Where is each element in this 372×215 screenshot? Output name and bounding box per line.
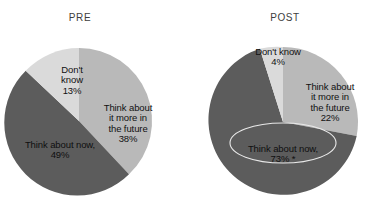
- pre-label-now: Think about now, 49%: [6, 129, 114, 171]
- post-label-now: Think about now, 73% *: [230, 133, 336, 175]
- post-label-future-text: Think about it more in the future: [306, 81, 355, 113]
- pie-chart-figure: PRE POST Think about it more in the futu…: [0, 0, 372, 215]
- pre-label-dont-know: Don't know 13%: [48, 54, 96, 107]
- pre-label-dont-know-pct: 13%: [48, 86, 96, 97]
- post-label-now-text: Think about now,: [248, 143, 318, 154]
- pre-label-now-text: Think about now,: [25, 139, 95, 150]
- post-label-dont-know: Don't know 4%: [242, 36, 314, 78]
- post-label-future: Think about it more in the future 22%: [294, 71, 366, 135]
- post-label-now-pct: 73% *: [230, 154, 336, 165]
- post-label-future-pct: 22%: [294, 113, 366, 124]
- pre-label-dont-know-text: Don't know: [61, 64, 83, 86]
- post-label-dont-know-text: Don't know: [255, 46, 301, 57]
- post-label-dont-know-pct: 4%: [242, 57, 314, 68]
- pre-label-now-pct: 49%: [6, 150, 114, 161]
